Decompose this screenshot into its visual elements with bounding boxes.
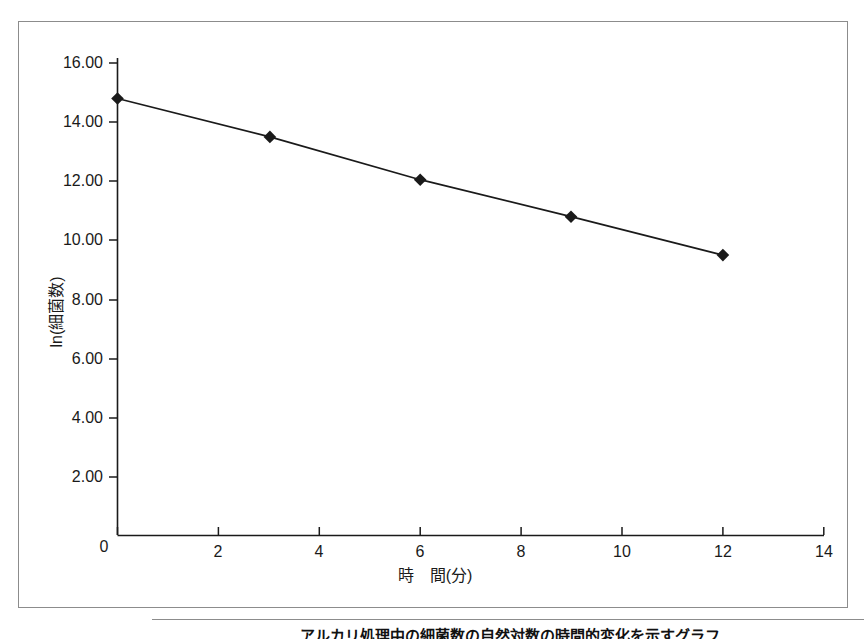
x-tick-label: 8 — [501, 543, 541, 561]
y-tick-marks — [109, 63, 117, 477]
figure-page: 16.00 14.00 12.00 10.00 8.00 6.00 4.00 2… — [0, 0, 868, 639]
x-tick-label: 2 — [198, 543, 238, 561]
x-tick-label: 10 — [602, 543, 642, 561]
x-tick-label: 12 — [703, 543, 743, 561]
y-axis-title: ln(細菌数) — [43, 227, 67, 397]
y-origin-label: 0 — [84, 538, 124, 556]
y-tick-label: 14.00 — [29, 113, 103, 131]
data-point-marker — [565, 210, 578, 223]
data-point-markers — [111, 92, 729, 261]
y-tick-label: 12.00 — [29, 172, 103, 190]
data-point-marker — [264, 131, 277, 144]
data-point-marker — [717, 249, 730, 262]
y-tick-label: 16.00 — [29, 54, 103, 72]
x-tick-label: 4 — [299, 543, 339, 561]
y-tick-label: 4.00 — [29, 409, 103, 427]
x-axis-title: 時 間(分) — [320, 562, 550, 586]
x-tick-marks — [118, 527, 824, 535]
data-point-marker — [111, 92, 124, 105]
x-tick-label: 14 — [804, 543, 844, 561]
x-tick-label: 6 — [400, 543, 440, 561]
y-tick-label: 2.00 — [29, 468, 103, 486]
chart-plot-area: 16.00 14.00 12.00 10.00 8.00 6.00 4.00 2… — [0, 0, 868, 639]
figure-caption: アルカリ処理中の細菌数の自然対数の時間的変化を示すグラフ — [152, 626, 868, 639]
data-point-marker — [414, 173, 427, 186]
caption-divider — [152, 619, 864, 620]
